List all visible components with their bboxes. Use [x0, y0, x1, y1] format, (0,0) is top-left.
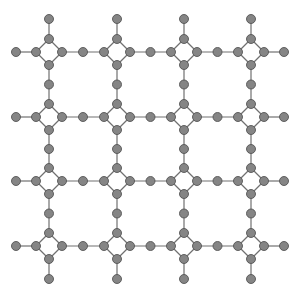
diamond-node: [180, 126, 189, 135]
diamond-node: [234, 242, 243, 251]
bridge-node: [247, 209, 256, 218]
pendant-node: [45, 275, 54, 284]
pendant-node: [113, 275, 122, 284]
diamond-node: [32, 113, 41, 122]
bridge-node: [213, 177, 222, 186]
diamond-node: [32, 48, 41, 57]
pendant-node: [247, 15, 256, 24]
edges-layer: [16, 19, 284, 279]
bridge-node: [213, 113, 222, 122]
bridge-node: [79, 48, 88, 57]
bridge-node: [45, 145, 54, 154]
bridge-node: [247, 145, 256, 154]
diamond-node: [193, 177, 202, 186]
diamond-node: [247, 190, 256, 199]
diamond-node: [126, 48, 135, 57]
pendant-node: [280, 113, 289, 122]
diamond-node: [100, 177, 109, 186]
diamond-node: [113, 126, 122, 135]
bridge-node: [79, 113, 88, 122]
diamond-node: [113, 61, 122, 70]
bridge-node: [213, 48, 222, 57]
diamond-node: [247, 255, 256, 264]
lattice-diagram: [0, 0, 300, 295]
bridge-node: [146, 242, 155, 251]
pendant-node: [12, 48, 21, 57]
pendant-node: [12, 177, 21, 186]
diamond-node: [180, 35, 189, 44]
diamond-node: [58, 242, 67, 251]
diamond-node: [45, 164, 54, 173]
bridge-node: [213, 242, 222, 251]
diamond-node: [260, 113, 269, 122]
diamond-node: [193, 113, 202, 122]
diamond-node: [167, 113, 176, 122]
diamond-node: [167, 48, 176, 57]
pendant-node: [280, 177, 289, 186]
diamond-node: [45, 229, 54, 238]
pendant-node: [280, 242, 289, 251]
diamond-node: [260, 242, 269, 251]
bridge-node: [79, 177, 88, 186]
bridge-node: [146, 48, 155, 57]
bridge-node: [247, 80, 256, 89]
diamond-node: [180, 61, 189, 70]
bridge-node: [45, 209, 54, 218]
diamond-node: [113, 255, 122, 264]
diamond-node: [58, 113, 67, 122]
diamond-node: [100, 48, 109, 57]
diamond-node: [113, 164, 122, 173]
diamond-node: [126, 242, 135, 251]
diamond-node: [126, 177, 135, 186]
diamond-node: [234, 177, 243, 186]
bridge-node: [146, 113, 155, 122]
diamond-node: [113, 229, 122, 238]
pendant-node: [45, 15, 54, 24]
diamond-node: [247, 229, 256, 238]
diamond-node: [180, 190, 189, 199]
bridge-node: [180, 209, 189, 218]
diamond-node: [247, 164, 256, 173]
pendant-node: [113, 15, 122, 24]
bridge-node: [146, 177, 155, 186]
diamond-node: [32, 242, 41, 251]
diamond-node: [113, 190, 122, 199]
diamond-node: [260, 48, 269, 57]
bridge-node: [113, 80, 122, 89]
diamond-node: [260, 177, 269, 186]
diamond-node: [126, 113, 135, 122]
diamond-node: [45, 190, 54, 199]
diamond-node: [247, 35, 256, 44]
diamond-node: [32, 177, 41, 186]
pendant-node: [247, 275, 256, 284]
diamond-node: [180, 100, 189, 109]
pendant-node: [12, 113, 21, 122]
diamond-node: [234, 113, 243, 122]
pendant-node: [280, 48, 289, 57]
pendant-node: [12, 242, 21, 251]
diamond-node: [45, 35, 54, 44]
diamond-node: [180, 229, 189, 238]
pendant-node: [180, 15, 189, 24]
diamond-node: [100, 242, 109, 251]
bridge-node: [180, 145, 189, 154]
diamond-node: [167, 177, 176, 186]
diamond-node: [247, 100, 256, 109]
diamond-node: [58, 177, 67, 186]
diamond-node: [193, 48, 202, 57]
diamond-node: [247, 61, 256, 70]
diamond-node: [58, 48, 67, 57]
diamond-node: [45, 61, 54, 70]
bridge-node: [113, 209, 122, 218]
diamond-node: [100, 113, 109, 122]
bridge-node: [113, 145, 122, 154]
nodes-layer: [12, 15, 289, 284]
diamond-node: [45, 255, 54, 264]
diamond-node: [167, 242, 176, 251]
bridge-node: [45, 80, 54, 89]
diamond-node: [45, 100, 54, 109]
diamond-node: [113, 100, 122, 109]
diamond-node: [180, 164, 189, 173]
bridge-node: [180, 80, 189, 89]
bridge-node: [79, 242, 88, 251]
